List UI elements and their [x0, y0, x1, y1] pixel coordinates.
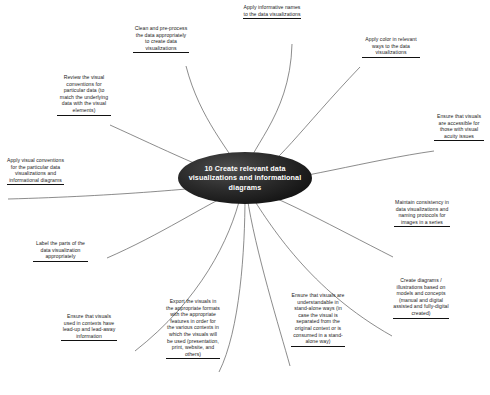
branch-review-visual-conventions[interactable]: Review the visual conventions for partic…: [57, 74, 111, 116]
branch-underline: [61, 340, 117, 341]
branch-underline: [133, 52, 189, 53]
branch-underline: [434, 140, 484, 141]
branch-apply-informative-names-label: Apply informative names to the data visu…: [243, 4, 301, 18]
branch-apply-informative-names[interactable]: Apply informative names to the data visu…: [243, 4, 301, 19]
branch-apply-color[interactable]: Apply color in relevant ways to the data…: [362, 36, 420, 58]
branch-underline: [166, 358, 220, 359]
branch-underline: [393, 318, 449, 319]
branch-label-the-parts-label: Label the parts of the data visualizatio…: [33, 240, 88, 261]
branch-create-diagrams-illustrations[interactable]: Create diagrams / illustrations based on…: [393, 277, 449, 319]
branch-maintain-consistency[interactable]: Maintain consistency in data visualizati…: [394, 199, 450, 227]
branch-underline: [291, 346, 345, 347]
branch-clean-and-preprocess-label: Clean and pre-process the data appropria…: [133, 25, 189, 52]
branch-ensure-stand-alone[interactable]: Ensure that visuals are understandable i…: [291, 292, 345, 347]
center-node[interactable]: 10 Create relevant data visualizations a…: [178, 152, 312, 204]
branch-apply-visual-conventions[interactable]: Apply visual conventions for the particu…: [7, 157, 64, 185]
branch-apply-visual-conventions-label: Apply visual conventions for the particu…: [7, 157, 64, 184]
branch-review-visual-conventions-label: Review the visual conventions for partic…: [57, 74, 111, 115]
branch-export-the-visuals-label: Export the visuals in the appropriate fo…: [166, 298, 220, 358]
branch-apply-color-label: Apply color in relevant ways to the data…: [362, 36, 420, 57]
branch-create-diagrams-illustrations-label: Create diagrams / illustrations based on…: [393, 277, 449, 318]
branch-clean-and-preprocess[interactable]: Clean and pre-process the data appropria…: [133, 25, 189, 53]
branch-underline: [57, 115, 111, 116]
branch-ensure-stand-alone-label: Ensure that visuals are understandable i…: [291, 292, 345, 346]
branch-label-the-parts[interactable]: Label the parts of the data visualizatio…: [33, 240, 88, 262]
center-node-label: 10 Create relevant data visualizations a…: [188, 164, 302, 192]
mind-map-diagram: 10 Create relevant data visualizations a…: [0, 0, 490, 395]
branch-underline: [7, 184, 64, 185]
branch-underline: [362, 57, 420, 58]
branch-ensure-lead-up-lead-away-label: Ensure that visuals used in contexts hav…: [61, 313, 117, 340]
branch-underline: [243, 18, 301, 19]
branch-underline: [33, 261, 88, 262]
branch-ensure-accessible[interactable]: Ensure that visuals are accessible for t…: [434, 113, 484, 141]
edge-export-the-visuals: [219, 196, 245, 372]
branch-underline: [394, 226, 450, 227]
branch-ensure-accessible-label: Ensure that visuals are accessible for t…: [434, 113, 484, 140]
edge-ensure-stand-alone: [247, 196, 290, 366]
branch-export-the-visuals[interactable]: Export the visuals in the appropriate fo…: [166, 298, 220, 359]
branch-maintain-consistency-label: Maintain consistency in data visualizati…: [394, 199, 450, 226]
branch-ensure-lead-up-lead-away[interactable]: Ensure that visuals used in contexts hav…: [61, 313, 117, 341]
